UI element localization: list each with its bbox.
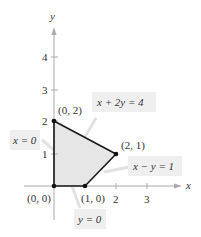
y-tick-label-4: 4 (42, 51, 48, 63)
x-axis-label: x (185, 179, 191, 191)
y-tick-label-2: 2 (42, 115, 48, 127)
point-label-0-2: (0, 2) (58, 104, 82, 117)
callout-line-y0 (72, 186, 80, 208)
point-label-2-1: (2, 1) (121, 139, 145, 152)
feasible-region-diagram: y x 2 3 1 2 3 4 (0, 0) (1, 0) (2, 1) (0,… (0, 0, 201, 237)
y-tick-label-1: 1 (42, 148, 48, 160)
vertex-0-0 (52, 184, 57, 189)
x-tick-label-2: 2 (113, 193, 119, 205)
y-axis-arrow-icon (52, 27, 57, 35)
y-axis-label: y (49, 10, 55, 22)
feasible-region (54, 121, 116, 186)
x-axis-arrow-icon (174, 184, 182, 189)
point-label-1-0: (1, 0) (81, 192, 105, 205)
y-tick-label-3: 3 (42, 84, 48, 96)
point-label-0-0: (0, 0) (27, 192, 51, 205)
x-tick-label-3: 3 (144, 193, 150, 205)
constraint-x-minus-y: x − y = 1 (132, 160, 174, 172)
constraint-x-zero: x = 0 (12, 134, 37, 146)
vertex-0-2 (52, 119, 57, 124)
constraint-x-plus-2y: x + 2y = 4 (96, 96, 144, 108)
vertex-2-1 (114, 152, 119, 157)
constraint-y-zero: y = 0 (77, 213, 102, 225)
vertex-1-0 (83, 184, 88, 189)
